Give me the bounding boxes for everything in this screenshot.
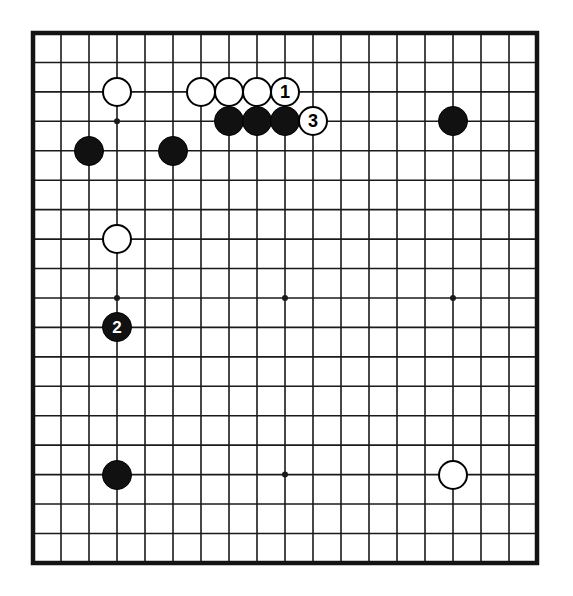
move-number-label: 2 bbox=[112, 318, 121, 335]
move-number-label: 3 bbox=[308, 112, 318, 130]
stone-black[interactable] bbox=[158, 136, 188, 166]
star-point bbox=[282, 295, 288, 301]
stone-white[interactable] bbox=[214, 77, 244, 107]
stone-white[interactable] bbox=[242, 77, 272, 107]
star-point bbox=[282, 472, 288, 478]
stone-black[interactable] bbox=[102, 460, 132, 490]
star-point bbox=[114, 295, 120, 301]
go-diagram: 132 bbox=[0, 0, 573, 596]
stone-white[interactable] bbox=[186, 77, 216, 107]
stone-white[interactable] bbox=[102, 224, 132, 254]
star-point bbox=[450, 295, 456, 301]
stone-black[interactable] bbox=[74, 136, 104, 166]
stone-white[interactable] bbox=[438, 460, 468, 490]
stone-white[interactable] bbox=[102, 77, 132, 107]
move-stone-1[interactable]: 1 bbox=[270, 77, 300, 107]
star-point bbox=[114, 118, 120, 124]
move-number-label: 1 bbox=[280, 82, 290, 100]
